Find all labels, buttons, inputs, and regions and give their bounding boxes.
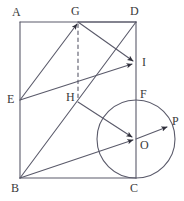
vertex-label-G: G xyxy=(71,5,80,17)
segment-GI xyxy=(78,22,133,61)
vertex-label-A: A xyxy=(12,6,21,18)
vertex-label-I: I xyxy=(142,56,146,68)
vertex-label-F: F xyxy=(140,88,147,100)
segment-HO xyxy=(78,102,132,137)
segment-EI xyxy=(20,64,132,100)
geometry-figure: A G D I E H F O P B C xyxy=(0,0,184,201)
geometry-canvas xyxy=(0,0,184,201)
vertex-label-O: O xyxy=(140,139,149,151)
vertex-label-B: B xyxy=(11,182,19,194)
vertex-label-P: P xyxy=(172,115,179,127)
vertex-label-C: C xyxy=(130,182,138,194)
segment-EG xyxy=(20,24,77,100)
vertex-label-E: E xyxy=(7,93,14,105)
vertex-label-D: D xyxy=(130,5,139,17)
vertex-label-H: H xyxy=(66,91,75,103)
